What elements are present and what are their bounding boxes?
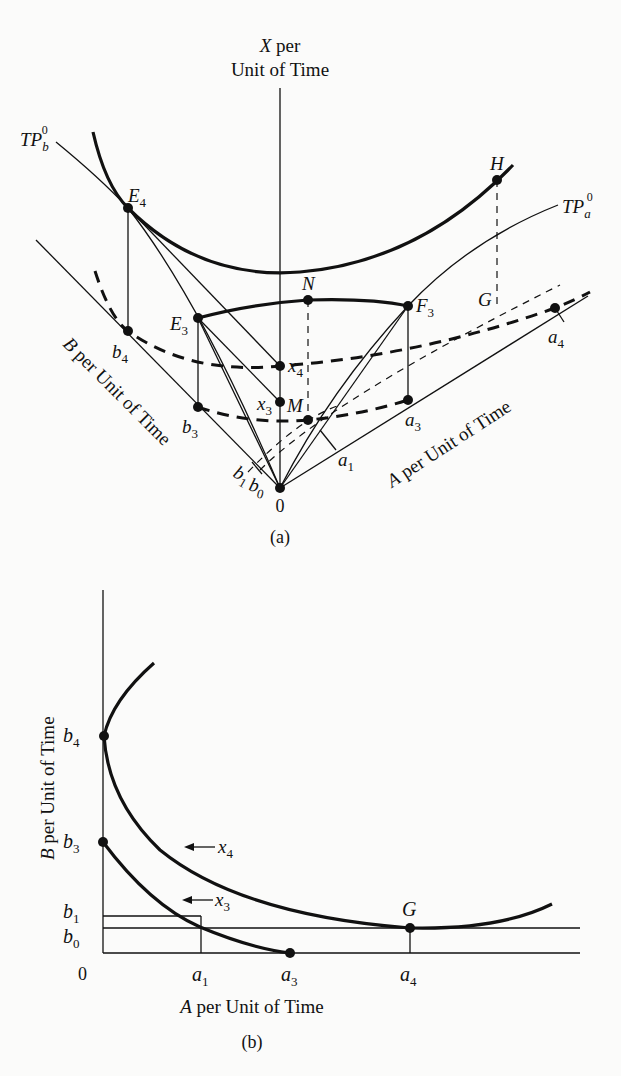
point-a3 (403, 395, 413, 405)
label-x3: x3 (256, 393, 272, 418)
point-b3 (193, 402, 203, 412)
tick-a4: a4 (400, 963, 417, 989)
point-origin (275, 483, 285, 493)
label-b4: b4 (112, 341, 129, 366)
caption-a: (a) (270, 527, 290, 548)
label-x4: x4 (217, 836, 233, 861)
point-n (303, 295, 313, 305)
point-h (492, 175, 502, 185)
label-g-b: G (402, 898, 417, 920)
point-e3 (193, 313, 203, 323)
label-g: G (478, 289, 492, 310)
point-b3 (98, 837, 108, 847)
label-origin-a: 0 (276, 496, 285, 516)
label-a3: a3 (405, 409, 421, 434)
label-x3: x3 (214, 889, 230, 914)
x-axis-label-line2: Unit of Time (231, 59, 329, 80)
b-x-axis-label: A per Unit of Time (178, 996, 324, 1017)
a1-tick (320, 430, 336, 450)
isoquant-x4 (104, 663, 552, 928)
point-x3 (275, 397, 285, 407)
label-tp-a: TPa0 (562, 190, 593, 221)
point-f3 (403, 301, 413, 311)
label-e3: E3 (169, 313, 188, 338)
upper-thick-curve (93, 132, 513, 273)
x-axis-label-line1: HX per (259, 35, 301, 56)
label-m: M (286, 395, 304, 416)
label-x4: x4 (287, 355, 303, 380)
caption-b: (b) (242, 1032, 263, 1053)
point-x4 (275, 361, 285, 371)
label-n: N (301, 273, 316, 294)
e3-x3-ray (198, 318, 280, 402)
label-b3: b3 (182, 416, 198, 441)
e4-x4-ray (128, 208, 280, 366)
point-g (405, 923, 415, 933)
point-b4 (99, 731, 109, 741)
inner-dashed-curve (198, 400, 408, 421)
point-b4 (123, 326, 133, 336)
isoquant-x3 (103, 842, 290, 953)
label-h: H (489, 153, 505, 174)
middle-thick-curve (198, 300, 408, 318)
x4-arrow-head (184, 843, 194, 851)
label-a4: a4 (548, 326, 565, 351)
tick-b1: b1 (63, 900, 80, 926)
figure-a: HX per Unit of Time (20, 35, 593, 548)
x3-arrow-head (182, 896, 192, 904)
label-origin-b: 0 (78, 964, 87, 984)
figure-b: x4 x3 b4 b3 b1 b0 0 a1 a3 a4 G A per Uni… (37, 590, 580, 1053)
tick-b4: b4 (63, 724, 80, 750)
tick-b0: b0 (63, 925, 80, 951)
point-a3 (285, 948, 295, 958)
tick-b3: b3 (63, 830, 80, 856)
point-g (550, 303, 560, 313)
tick-a1: a1 (192, 963, 209, 989)
a-axis-label: A per Unit of Time (381, 396, 515, 493)
tick-a3: a3 (281, 963, 298, 989)
point-m (303, 415, 313, 425)
label-tp-b: TPb0 (20, 123, 49, 154)
b-y-axis-label: B per Unit of Time (37, 716, 58, 860)
figure-canvas: HX per Unit of Time (0, 0, 621, 1076)
label-a1: a1 (338, 449, 354, 474)
label-f3: F3 (415, 295, 434, 320)
